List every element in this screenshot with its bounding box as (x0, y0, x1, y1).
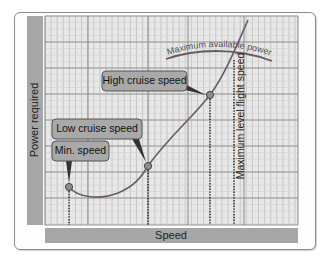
callout-label: Low cruise speed (56, 122, 138, 134)
callout-label: Min. speed (55, 144, 107, 156)
y-axis-label: Power required (28, 83, 40, 158)
speed-point-marker (65, 183, 72, 190)
speed-point-marker (144, 162, 151, 169)
max-level-flight-speed-label: Maximum level flight speed (234, 53, 246, 180)
callout-label: High cruise speed (102, 74, 186, 86)
x-axis-label: Speed (155, 229, 187, 241)
power-curve-diagram: Power required Speed Maximum available p… (0, 0, 322, 260)
speed-point-marker (206, 91, 213, 98)
